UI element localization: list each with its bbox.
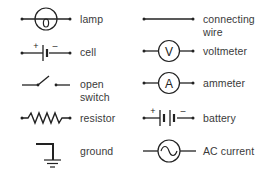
ammeter-glyph: A	[165, 77, 173, 91]
ammeter-label: ammeter	[203, 77, 245, 90]
open-switch-label: open switch	[80, 78, 110, 104]
connecting-wire-label: connecting wire	[203, 13, 255, 39]
voltmeter-icon: V	[140, 39, 198, 63]
wire-icon	[140, 12, 198, 26]
ac-source-icon	[140, 138, 198, 164]
ac-current-label: AC current	[203, 145, 254, 158]
voltmeter-label: voltmeter	[203, 45, 247, 58]
plus-mark: +	[150, 106, 155, 116]
open-switch-icon	[18, 72, 74, 92]
cell-icon: + –	[18, 40, 74, 64]
resistor-icon	[18, 110, 74, 126]
plus-mark: +	[33, 41, 38, 51]
ground-icon	[34, 141, 62, 171]
voltmeter-glyph: V	[165, 45, 173, 59]
resistor-label: resistor	[80, 112, 115, 125]
minus-mark: –	[180, 106, 185, 116]
lamp-icon	[18, 6, 74, 32]
battery-icon: + –	[140, 105, 198, 129]
battery-label: battery	[203, 112, 236, 125]
lamp-label: lamp	[80, 13, 103, 26]
ground-label: ground	[80, 145, 113, 158]
ammeter-icon: A	[140, 71, 198, 95]
cell-label: cell	[80, 46, 96, 59]
minus-mark: –	[52, 41, 57, 51]
